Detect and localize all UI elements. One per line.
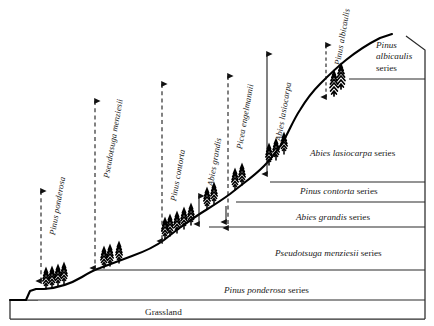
- zone-label-pseudotsuga-menziesii-series: Pseudotsuga menziesii series: [275, 248, 382, 258]
- zone-label-species: Pseudotsuga menziesii: [275, 248, 358, 258]
- zone-label-suffix: series: [347, 212, 370, 222]
- zone-label-suffix: series: [372, 148, 395, 158]
- zone-label-suffix: series: [286, 285, 309, 295]
- zone-label-suffix: series: [358, 248, 381, 258]
- zone-label-species: Abies lasiocarpa: [310, 148, 372, 158]
- zone-label-line3: series: [376, 63, 412, 74]
- zone-label-line1: Pinus: [376, 40, 412, 51]
- zone-label-abies-grandis-series: Abies grandis series: [296, 212, 370, 222]
- zone-label-grassland: Grassland: [145, 307, 182, 317]
- tree-cluster-contorta: [162, 205, 195, 239]
- zone-label-abies-lasiocarpa-series: Abies lasiocarpa series: [310, 148, 395, 158]
- zone-label-species: Abies grandis: [296, 212, 347, 222]
- zone-label-species: Pinus ponderosa: [224, 285, 286, 295]
- zone-label-pinus-albicaulis-series: Pinus albicaulis series: [376, 40, 412, 74]
- zone-label-pinus-ponderosa-series: Pinus ponderosa series: [224, 285, 309, 295]
- tree-krummholz-albicaulis: [330, 65, 345, 97]
- zone-label-suffix: series: [354, 186, 377, 196]
- zone-label-suffix: Grassland: [145, 307, 182, 317]
- zone-label-species: Pinus contorta: [300, 186, 354, 196]
- chart-frame: [10, 36, 425, 319]
- zone-label-line2: albicaulis: [376, 51, 412, 62]
- zone-label-pinus-contorta-series: Pinus contorta series: [300, 186, 378, 196]
- vegetation-zonation-figure: Pinus ponderosa Pseudotsuga menziesii Pi…: [0, 0, 434, 326]
